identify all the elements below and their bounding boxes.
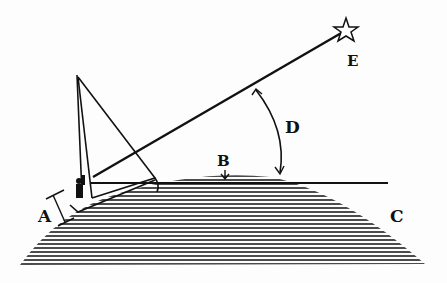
star-icon — [334, 18, 358, 41]
sea-surface — [0, 176, 447, 264]
sailor-figure — [76, 175, 85, 198]
label-b: B — [217, 152, 230, 170]
label-c: C — [390, 206, 404, 226]
label-d: D — [285, 117, 300, 137]
celestial-navigation-diagram: A B C D E — [0, 0, 447, 283]
label-a: A — [37, 206, 52, 226]
angle-arc — [256, 90, 281, 173]
label-e: E — [347, 52, 358, 70]
horizon-arrow — [221, 170, 229, 179]
diagram-canvas: A B C D E — [0, 0, 447, 283]
